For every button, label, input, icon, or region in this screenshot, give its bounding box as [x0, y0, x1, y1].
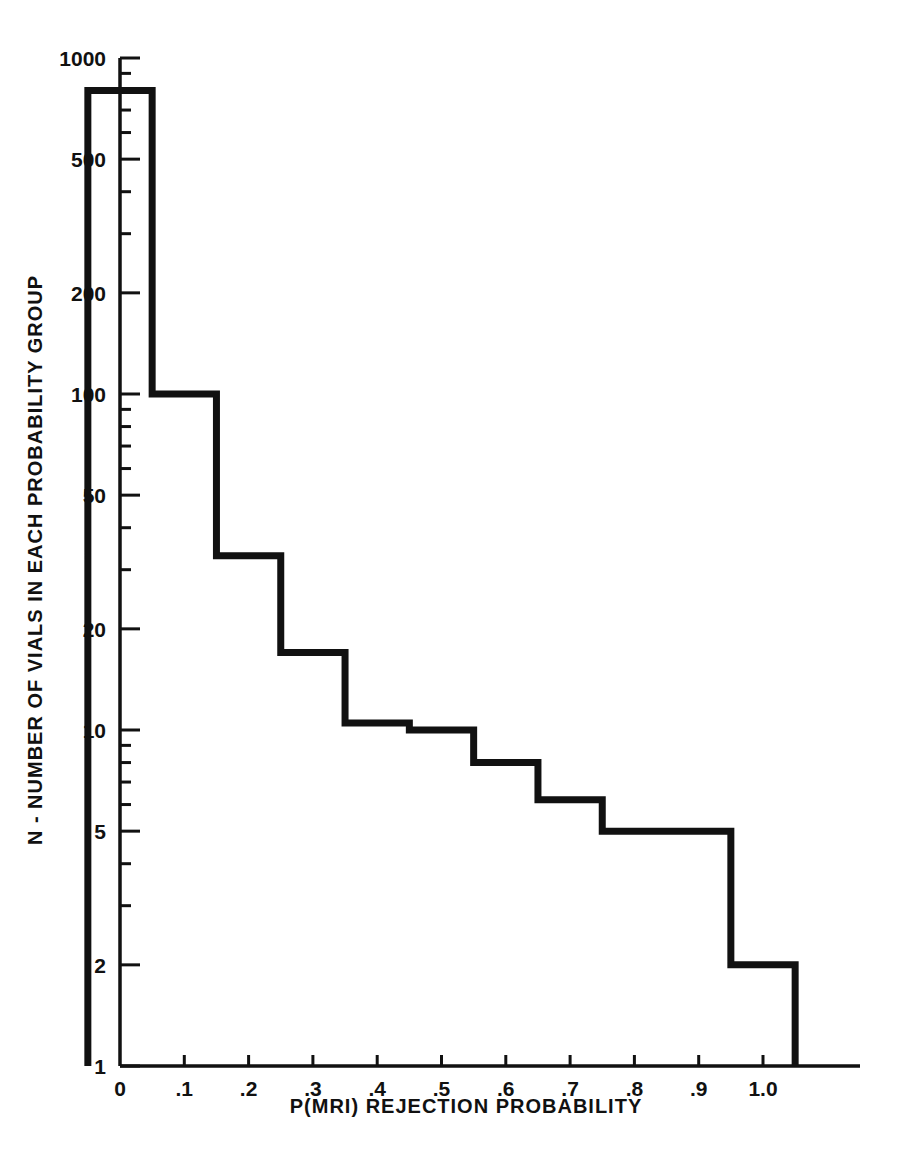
y-axis-tick-label: 2 — [94, 954, 106, 977]
y-axis-tick-label: 1000 — [59, 47, 106, 70]
chart-background — [0, 0, 910, 1155]
figure-canvas: 1251020501002005001000 0.1.2.3.4.5.6.7.8… — [0, 0, 910, 1155]
x-axis-title: P(MRI) REJECTION PROBABILITY — [290, 1095, 642, 1117]
x-axis-tick-label: 1.0 — [748, 1077, 777, 1100]
x-axis-tick-label: 0 — [114, 1077, 126, 1100]
x-axis-tick-label: .2 — [240, 1077, 258, 1100]
x-axis-tick-label: .1 — [176, 1077, 194, 1100]
x-axis-tick-label: .9 — [690, 1077, 708, 1100]
log-step-histogram-chart: 1251020501002005001000 0.1.2.3.4.5.6.7.8… — [0, 0, 910, 1155]
y-axis-tick-label: 5 — [94, 820, 106, 843]
y-axis-tick-label: 1 — [94, 1055, 106, 1078]
y-axis-title: N - NUMBER OF VIALS IN EACH PROBABILITY … — [24, 275, 46, 845]
